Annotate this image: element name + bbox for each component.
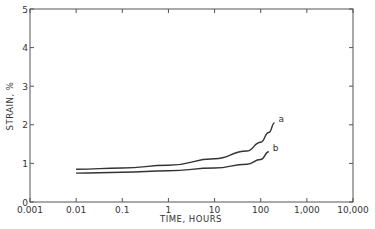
- y-tick-label: 4: [22, 43, 28, 53]
- y-tick-label: 2: [22, 120, 28, 130]
- strain-vs-time-chart: 0.0010.010.11101001,00010,000 012345 ab …: [0, 0, 375, 229]
- x-tick-label: 10,000: [337, 205, 369, 215]
- x-tick-label: 0.001: [17, 205, 43, 215]
- y-tick-label: 3: [22, 82, 28, 92]
- curve-a: [76, 123, 275, 169]
- curve-label-a: a: [279, 114, 285, 124]
- x-tick-label: 100: [252, 205, 269, 215]
- y-axis-title: STRAIN, %: [5, 82, 15, 131]
- x-tick-label: 1,000: [294, 205, 320, 215]
- y-tick-label: 5: [22, 5, 28, 15]
- y-tick-label: 1: [22, 159, 28, 169]
- x-axis-title: TIME, HOURS: [159, 214, 222, 224]
- curve-b: [76, 152, 269, 173]
- curve-label-b: b: [273, 143, 279, 153]
- x-tick-label: 0.1: [115, 205, 129, 215]
- x-tick-label: 0.01: [66, 205, 86, 215]
- data-curves: ab: [76, 114, 284, 173]
- y-tick-label: 0: [22, 198, 28, 208]
- y-tick-labels: 012345: [22, 5, 28, 208]
